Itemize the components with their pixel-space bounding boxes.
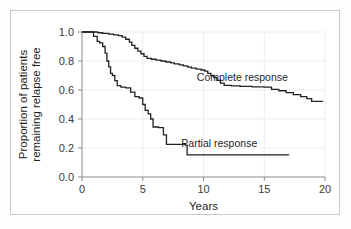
km-curve-complete-response xyxy=(82,32,323,102)
x-tick-label: 20 xyxy=(319,183,331,195)
y-tick-label: 0.8 xyxy=(59,55,74,67)
x-tick-label: 0 xyxy=(79,183,85,195)
y-axis-title-line: remaining relapse free xyxy=(30,47,42,161)
x-tick-label: 5 xyxy=(140,183,146,195)
km-survival-chart: 051015200.00.20.40.60.81.0YearsProportio… xyxy=(11,11,341,216)
y-tick-label: 0.4 xyxy=(59,113,74,125)
y-tick-label: 0.6 xyxy=(59,84,74,96)
y-tick-label: 0.2 xyxy=(59,142,74,154)
series-annotation: Complete response xyxy=(197,71,288,83)
x-axis-title: Years xyxy=(189,200,218,212)
chart-screenshot: 051015200.00.20.40.60.81.0YearsProportio… xyxy=(0,0,351,229)
y-tick-label: 0.0 xyxy=(59,171,74,183)
figure-frame: 051015200.00.20.40.60.81.0YearsProportio… xyxy=(10,10,340,215)
x-tick-label: 15 xyxy=(258,183,270,195)
x-tick-label: 10 xyxy=(197,183,209,195)
y-tick-label: 1.0 xyxy=(59,26,74,38)
series-annotation: Partial response xyxy=(181,137,257,149)
y-axis-title-line: Proportion of patients xyxy=(17,50,29,160)
